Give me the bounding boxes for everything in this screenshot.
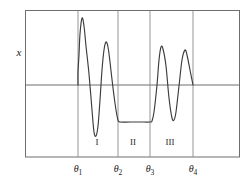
- tick-label-theta1: θ1: [74, 163, 83, 177]
- theta2-subscript: 2: [119, 168, 123, 177]
- theta3-subscript: 3: [151, 168, 155, 177]
- tick-label-theta2: θ2: [114, 163, 123, 177]
- y-axis-label: x: [16, 46, 22, 58]
- theta4-subscript: 4: [194, 168, 198, 177]
- region-label-i: I: [96, 137, 99, 147]
- region-label-ii: II: [130, 137, 136, 147]
- plot-frame: [26, 11, 240, 158]
- data-curve-signal: [78, 18, 193, 137]
- theta1-subscript: 1: [79, 168, 83, 177]
- plot-svg: x I II III θ1 θ2 θ3 θ4: [0, 0, 252, 184]
- region-label-iii: III: [166, 137, 175, 147]
- tick-label-theta3: θ3: [146, 163, 155, 177]
- tick-label-theta4: θ4: [189, 163, 198, 177]
- figure-container: x I II III θ1 θ2 θ3 θ4: [0, 0, 252, 184]
